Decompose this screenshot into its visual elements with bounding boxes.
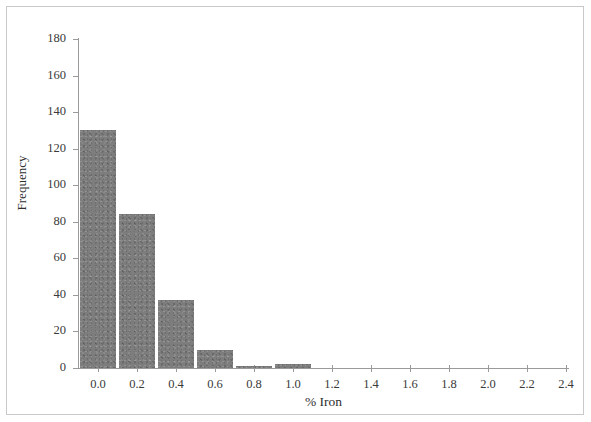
histogram-bar: [80, 130, 116, 368]
histogram-bar: [197, 350, 233, 368]
x-axis-tick-mark: [488, 365, 489, 372]
y-axis-tick-mark: [73, 295, 79, 296]
x-axis-tick-label: 1.2: [310, 377, 354, 392]
x-axis-tick-label: 2.4: [544, 377, 588, 392]
x-axis-tick-mark: [332, 365, 333, 372]
histogram-bar: [275, 364, 311, 368]
x-axis-tick-label: 0.4: [154, 377, 198, 392]
y-axis-tick-mark: [73, 185, 79, 186]
histogram-bar: [119, 214, 155, 368]
y-axis-tick-label: 0: [22, 361, 66, 373]
y-axis-line: [78, 38, 79, 369]
y-axis-tick-mark: [73, 222, 79, 223]
chart-page: 020406080100120140160180 0.00.20.40.60.8…: [0, 0, 591, 422]
y-axis-tick-mark: [73, 149, 79, 150]
y-axis-tick-label: 40: [22, 288, 66, 300]
y-axis-tick-mark: [73, 331, 79, 332]
x-axis-tick-label: 2.0: [466, 377, 510, 392]
y-axis-tick-label: 180: [22, 32, 66, 44]
x-axis-tick-label: 0.8: [232, 377, 276, 392]
y-axis-tick-label: 20: [22, 324, 66, 336]
y-axis-tick-label: 160: [22, 69, 66, 81]
x-axis-tick-mark: [371, 365, 372, 372]
x-axis-title: % Iron: [78, 394, 569, 410]
x-axis-tick-label: 2.2: [505, 377, 549, 392]
histogram-plot-area: 020406080100120140160180 0.00.20.40.60.8…: [0, 0, 591, 422]
x-axis-line: [78, 368, 569, 369]
x-axis-tick-label: 1.0: [271, 377, 315, 392]
y-axis-tick-mark: [73, 112, 79, 113]
y-axis-tick-mark: [73, 76, 79, 77]
histogram-bar: [236, 366, 272, 368]
x-axis-tick-label: 1.4: [349, 377, 393, 392]
y-axis-title: Frequency: [14, 143, 30, 223]
y-axis-tick-label: 60: [22, 251, 66, 263]
x-axis-tick-mark: [527, 365, 528, 372]
y-axis-tick-mark: [73, 258, 79, 259]
histogram-bar: [158, 300, 194, 368]
x-axis-tick-label: 1.8: [427, 377, 471, 392]
x-axis-tick-label: 1.6: [388, 377, 432, 392]
y-axis-tick-mark: [73, 39, 79, 40]
x-axis-tick-mark: [410, 365, 411, 372]
x-axis-tick-mark: [449, 365, 450, 372]
x-axis-tick-label: 0.2: [115, 377, 159, 392]
y-axis-tick-mark: [73, 368, 79, 369]
x-axis-tick-label: 0.6: [193, 377, 237, 392]
y-axis-tick-label: 140: [22, 105, 66, 117]
x-axis-tick-mark: [566, 365, 567, 372]
x-axis-tick-label: 0.0: [76, 377, 120, 392]
